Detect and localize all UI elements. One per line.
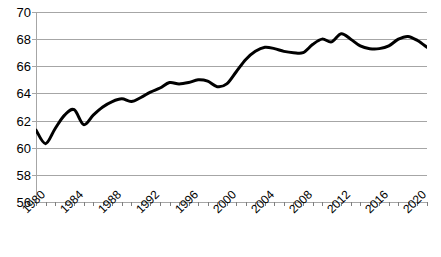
- y-tick-label: 64: [0, 87, 31, 100]
- line-chart: 7068666462605856 19801984198819921996200…: [0, 0, 441, 257]
- data-series-line: [36, 12, 427, 203]
- y-tick-label: 60: [0, 142, 31, 155]
- y-tick-label: 58: [0, 169, 31, 182]
- x-tick-mark: [427, 202, 428, 206]
- y-tick-label: 62: [0, 115, 31, 128]
- y-tick-label: 66: [0, 60, 31, 73]
- y-tick-label: 70: [0, 6, 31, 19]
- series-1-path: [36, 34, 427, 144]
- y-tick-label: 68: [0, 33, 31, 46]
